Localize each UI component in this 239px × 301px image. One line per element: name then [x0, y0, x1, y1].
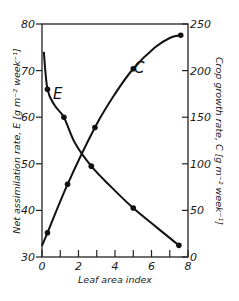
y-tick-label-left: 60 [21, 111, 35, 124]
y-tick-label-left: 70 [21, 65, 35, 78]
series-line-c [42, 35, 181, 246]
y-tick-label-right: 50 [190, 204, 204, 217]
y-tick-label-right: 200 [190, 65, 211, 78]
series-curves [42, 35, 181, 246]
y-tick-label-left: 50 [21, 158, 35, 171]
series-label-e: E [53, 85, 63, 103]
x-tick-label: 2 [75, 260, 82, 273]
data-point-c [65, 182, 71, 188]
y-tick-label-right: 0 [190, 251, 197, 264]
data-point-e [88, 163, 94, 169]
data-point-e [176, 243, 182, 249]
x-axis-label: Leaf area index [78, 274, 152, 285]
y-tick-label-right: 100 [190, 158, 211, 171]
x-tick-label: 4 [112, 260, 119, 273]
tick-labels: 02468304050607080050100150200250 [21, 18, 211, 273]
plot-frame [42, 24, 188, 257]
data-point-e [61, 114, 67, 120]
y-axis-label-right: Crop growth rate, C [g m⁻² week⁻¹] [214, 57, 225, 225]
data-point-c [45, 230, 51, 236]
x-tick-label: 0 [39, 260, 46, 273]
chart: 02468304050607080050100150200250 E C Lea… [0, 0, 239, 301]
data-point-c [178, 32, 184, 38]
axis-ticks [36, 24, 188, 257]
data-point-e [130, 205, 136, 211]
y-tick-label-left: 80 [21, 18, 35, 31]
x-tick-label: 6 [148, 260, 155, 273]
y-tick-label-right: 150 [190, 111, 211, 124]
y-tick-label-left: 30 [21, 251, 35, 264]
series-points [45, 32, 184, 248]
plot-border [42, 24, 188, 257]
y-tick-label-right: 250 [190, 18, 211, 31]
series-label-c: C [134, 59, 145, 77]
y-axis-label-left: Net assimilation rate, E [g m⁻² week⁻¹] [11, 48, 22, 234]
y-tick-label-left: 40 [21, 204, 35, 217]
series-line-e [44, 52, 179, 245]
data-point-c [92, 125, 98, 131]
data-point-e [45, 86, 51, 92]
